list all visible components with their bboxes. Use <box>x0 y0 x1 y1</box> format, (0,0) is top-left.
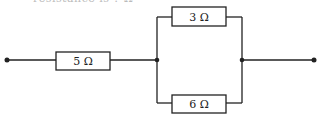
terminal-left <box>5 58 10 63</box>
junction-left <box>155 58 160 63</box>
resistor-6-ohm-label: 6 Ω <box>189 98 209 111</box>
resistor-5-ohm-label: 5 Ω <box>73 55 93 68</box>
resistor-3-ohm-label: 3 Ω <box>189 11 209 24</box>
terminal-right <box>312 58 317 63</box>
junction-right <box>240 58 245 63</box>
circuit-diagram: 5 Ω 3 Ω 6 Ω <box>0 0 321 127</box>
